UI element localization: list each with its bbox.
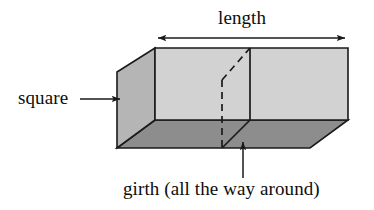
square-label: square [18,88,68,107]
length-label: length [218,8,266,27]
box-shape [117,48,348,148]
figure-container: length square girth (all the way around) [0,0,374,210]
girth-label: girth (all the way around) [123,179,320,198]
box-front-face [155,48,348,120]
box-bottom-face [117,120,348,148]
